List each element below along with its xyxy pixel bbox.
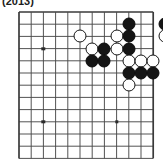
- white-stone[interactable]: [147, 54, 160, 67]
- black-stone[interactable]: [122, 67, 135, 80]
- white-stone[interactable]: [122, 54, 135, 67]
- white-stone[interactable]: [122, 79, 135, 92]
- go-diagram-figure: (2013): [0, 0, 163, 164]
- black-stone[interactable]: [86, 54, 99, 67]
- figure-caption: (2013): [2, 0, 34, 7]
- white-stone[interactable]: [86, 42, 99, 55]
- black-stone[interactable]: [122, 42, 135, 55]
- star-point: [42, 47, 45, 50]
- black-stone[interactable]: [98, 42, 111, 55]
- black-stone[interactable]: [122, 18, 135, 31]
- star-point: [42, 120, 45, 123]
- black-stone[interactable]: [98, 54, 111, 67]
- go-board-container[interactable]: [0, 10, 163, 164]
- black-stone[interactable]: [135, 67, 148, 80]
- white-stone[interactable]: [110, 30, 123, 43]
- white-stone[interactable]: [110, 42, 123, 55]
- black-stone[interactable]: [147, 67, 160, 80]
- white-stone[interactable]: [74, 30, 87, 43]
- star-point: [115, 120, 118, 123]
- white-stone[interactable]: [135, 54, 148, 67]
- black-stone[interactable]: [122, 30, 135, 43]
